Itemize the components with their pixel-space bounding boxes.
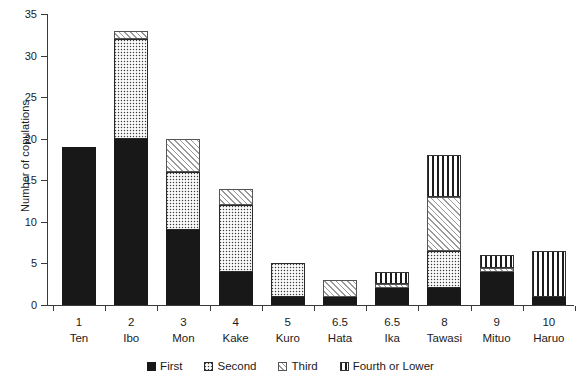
- bar-haruo: [532, 251, 566, 305]
- bar-hata: [323, 280, 357, 305]
- legend-item-first: First: [147, 360, 182, 372]
- bar-ika: [375, 272, 409, 305]
- x-tick: [262, 306, 263, 311]
- bar-segment-second: [114, 39, 148, 139]
- legend-item-second: Second: [204, 360, 256, 372]
- bar-ibo: [114, 31, 148, 305]
- bar-mon: [166, 139, 200, 305]
- y-tick: 25: [41, 97, 47, 98]
- legend-label: Second: [217, 360, 256, 372]
- y-tick-label: 5: [31, 256, 37, 270]
- x-tick: [157, 306, 158, 311]
- bar-segment-third: [166, 139, 200, 172]
- bar-segment-first: [480, 272, 514, 305]
- x-tick: [523, 306, 524, 311]
- y-tick: 30: [41, 56, 47, 57]
- bar-kuro: [271, 263, 305, 305]
- legend-label: Third: [291, 360, 317, 372]
- bar-segment-first: [166, 230, 200, 305]
- bar-segment-third: [427, 197, 461, 251]
- x-tick: [575, 306, 576, 311]
- bar-segment-second: [427, 251, 461, 288]
- vertical-stripe-swatch-icon: [340, 362, 349, 371]
- bar-ten: [62, 147, 96, 305]
- x-tick: [418, 306, 419, 311]
- y-tick: 15: [41, 180, 47, 181]
- y-tick-label: 35: [25, 7, 37, 21]
- y-tick: 10: [41, 222, 47, 223]
- y-tick-label: 10: [25, 215, 37, 229]
- y-tick-label: 25: [25, 90, 37, 104]
- x-label-name: Haruo: [512, 330, 581, 347]
- bar-segment-third: [219, 189, 253, 206]
- legend-item-fourth-or-lower: Fourth or Lower: [340, 360, 434, 372]
- x-tick: [105, 306, 106, 311]
- bar-segment-first: [219, 272, 253, 305]
- x-label-group: 10Haruo: [512, 314, 581, 347]
- bar-segment-first: [427, 288, 461, 305]
- y-tick: 0: [41, 305, 47, 306]
- x-tick: [314, 306, 315, 311]
- legend-item-third: Third: [278, 360, 317, 372]
- bar-segment-fourth-or-lower: [480, 255, 514, 267]
- y-tick-label: 20: [25, 132, 37, 146]
- bar-segment-first: [271, 297, 305, 305]
- x-tick: [471, 306, 472, 311]
- solid-black-swatch-icon: [147, 362, 156, 371]
- legend-label: Fourth or Lower: [353, 360, 434, 372]
- y-tick-label: 30: [25, 49, 37, 63]
- x-tick: [210, 306, 211, 311]
- bar-chart: Number of copulations 05101520253035 1Te…: [0, 0, 581, 382]
- bar-segment-fourth-or-lower: [427, 155, 461, 197]
- bar-segment-first: [375, 288, 409, 305]
- bar-segment-first: [62, 147, 96, 305]
- bar-segment-second: [219, 205, 253, 272]
- x-tick: [53, 306, 54, 311]
- y-tick: 35: [41, 14, 47, 15]
- bar-segment-third: [323, 280, 357, 297]
- x-label-rank: 10: [512, 314, 581, 330]
- legend-label: First: [160, 360, 182, 372]
- x-tick: [366, 306, 367, 311]
- bar-mituo: [480, 255, 514, 305]
- light-hatch-swatch-icon: [278, 362, 287, 371]
- bar-segment-second: [166, 172, 200, 230]
- dark-checker-swatch-icon: [204, 362, 213, 371]
- y-tick: 20: [41, 139, 47, 140]
- y-axis-line: [47, 14, 48, 306]
- bar-segment-third: [114, 31, 148, 39]
- plot-area: 05101520253035 1Ten2Ibo3Mon4Kake5Kuro6.5…: [47, 14, 574, 306]
- bar-segment-fourth-or-lower: [375, 272, 409, 284]
- bar-kake: [219, 189, 253, 305]
- chart-legend: FirstSecondThirdFourth or Lower: [0, 360, 581, 372]
- bar-segment-first: [532, 297, 566, 305]
- bar-tawasi: [427, 155, 461, 305]
- y-tick: 5: [41, 263, 47, 264]
- y-tick-label: 0: [31, 298, 37, 312]
- x-axis-line: [47, 305, 574, 306]
- bar-segment-second: [271, 263, 305, 296]
- bar-segment-first: [323, 297, 357, 305]
- bar-segment-fourth-or-lower: [532, 251, 566, 297]
- bar-segment-first: [114, 139, 148, 305]
- y-tick-label: 15: [25, 173, 37, 187]
